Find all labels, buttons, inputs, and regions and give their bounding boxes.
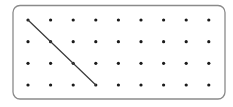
grid-dot-r0-c3 [94, 18, 97, 21]
dot-grid-diagram [0, 0, 233, 107]
dot-grid [26, 18, 210, 86]
grid-dot-r0-c4 [117, 18, 120, 21]
grid-dot-r1-c6 [162, 40, 165, 43]
grid-dot-r1-c7 [185, 40, 188, 43]
grid-dot-r3-c6 [162, 83, 165, 86]
grid-dot-r1-c5 [139, 40, 142, 43]
grid-dot-r3-c8 [207, 83, 210, 86]
grid-dot-r2-c1 [49, 62, 52, 65]
grid-dot-r1-c2 [72, 40, 75, 43]
grid-dot-r0-c1 [49, 18, 52, 21]
grid-dot-r3-c4 [117, 83, 120, 86]
grid-dot-r3-c5 [139, 83, 142, 86]
grid-dot-r2-c3 [94, 62, 97, 65]
grid-dot-r1-c4 [117, 40, 120, 43]
grid-dot-r2-c7 [185, 62, 188, 65]
grid-dot-r2-c0 [26, 62, 29, 65]
grid-dot-r0-c8 [207, 18, 210, 21]
line-segments [28, 20, 96, 85]
grid-dot-r2-c8 [207, 62, 210, 65]
grid-dot-r2-c6 [162, 62, 165, 65]
grid-dot-r0-c5 [139, 18, 142, 21]
grid-dot-r2-c4 [117, 62, 120, 65]
grid-dot-r3-c7 [185, 83, 188, 86]
grid-dot-r0-c7 [185, 18, 188, 21]
grid-dot-r1-c3 [94, 40, 97, 43]
grid-dot-r1-c8 [207, 40, 210, 43]
grid-dot-r2-c5 [139, 62, 142, 65]
grid-dot-r3-c1 [49, 83, 52, 86]
grid-dot-r0-c6 [162, 18, 165, 21]
grid-dot-r3-c2 [72, 83, 75, 86]
diagonal-segment-0 [28, 20, 96, 85]
grid-dot-r1-c0 [26, 40, 29, 43]
grid-dot-r0-c2 [72, 18, 75, 21]
grid-dot-r3-c0 [26, 83, 29, 86]
